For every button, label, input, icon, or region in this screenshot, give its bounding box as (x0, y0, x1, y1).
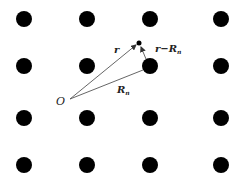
lattice-dot (16, 58, 32, 74)
lattice-dot (79, 58, 95, 74)
lattice-dot (79, 110, 95, 126)
label-origin: O (56, 95, 65, 108)
lattice-dot (142, 11, 158, 27)
lattice-dot (16, 110, 32, 126)
lattice-dot (142, 110, 158, 126)
lattice-dot (213, 110, 229, 126)
lattice-dot (79, 157, 95, 173)
lattice-dot (79, 11, 95, 27)
vector-r-minus-Rn (141, 47, 146, 59)
lattice-diagram: r r−Rn Rn O (0, 0, 239, 184)
lattice-dot (213, 11, 229, 27)
diagram-svg: r r−Rn Rn O (0, 0, 239, 184)
lattice-dot (142, 58, 158, 74)
label-Rn: Rn (116, 84, 130, 96)
lattice-dot (16, 157, 32, 173)
lattice-dot (16, 11, 32, 27)
lattice-dot (213, 58, 229, 74)
vector-Rn (70, 70, 143, 99)
label-r-minus-Rn: r−Rn (155, 43, 181, 55)
point-r (137, 41, 142, 46)
label-r: r (114, 44, 120, 55)
lattice-dot (142, 157, 158, 173)
lattice-dot (213, 157, 229, 173)
